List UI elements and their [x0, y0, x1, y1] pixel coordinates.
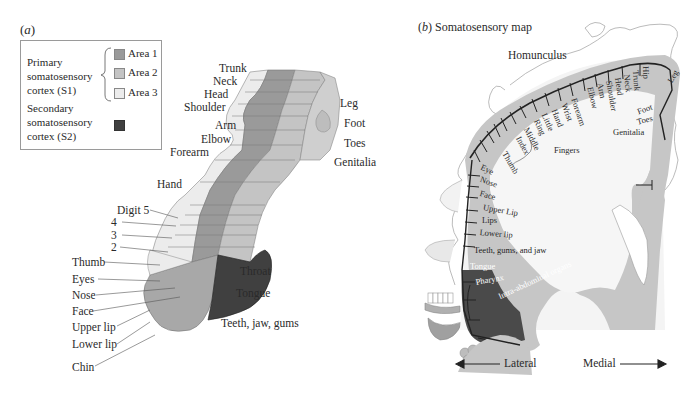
somatosensory-map-illustration [0, 0, 697, 395]
homunculus-label: Homunculus [508, 50, 567, 62]
arc-label-trunk: Trunk [632, 70, 642, 91]
axis-lateral-label: Lateral [504, 358, 537, 370]
fingers-label: Fingers [554, 146, 580, 155]
arc-label-hip: Hip [642, 66, 651, 79]
mouth-label-teeth-gums-jaw: Teeth, gums, and jaw [474, 246, 546, 255]
mouth-label-tongue: Tongue [470, 262, 495, 271]
genitalia-label: Genitalia [613, 128, 644, 137]
face-label-lips: Lips [482, 216, 497, 225]
axis-medial-label: Medial [583, 358, 616, 370]
